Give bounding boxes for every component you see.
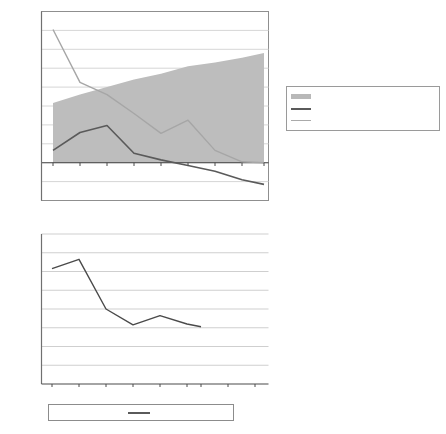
legend-item[interactable] (291, 103, 435, 114)
housing-consumer-loans-chart (0, 0, 286, 218)
gridlines-bottom (42, 234, 269, 365)
interest-rates-chart (0, 218, 286, 434)
line-interest-rates (52, 259, 201, 327)
line-swatch-light-icon (291, 115, 311, 126)
line-swatch-dark-icon (291, 103, 311, 114)
legend-top-chart (286, 86, 440, 131)
area-swatch-icon (291, 91, 311, 102)
legend-item[interactable] (291, 91, 435, 102)
legend-bottom-chart (48, 404, 234, 421)
line-swatch-dark-icon (128, 407, 150, 418)
legend-item[interactable] (291, 115, 435, 126)
